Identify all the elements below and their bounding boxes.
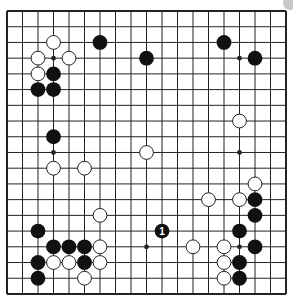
black-stone [46,239,61,254]
black-stone [93,35,108,50]
white-stone [31,67,45,81]
black-stone [248,192,263,207]
star-point [51,56,56,61]
white-stone [62,256,76,270]
black-stone [62,239,77,254]
white-stone [47,161,61,175]
star-point [237,56,242,61]
white-stone [93,208,107,222]
white-stone [217,256,231,270]
white-stone [78,161,92,175]
white-stone [47,36,61,50]
black-stone [248,208,263,223]
black-stone [77,239,92,254]
black-stone [31,271,46,286]
white-stone [47,256,61,270]
black-stone [139,51,154,66]
black-stone [31,255,46,270]
white-stone [78,271,92,285]
black-stone [217,35,232,50]
white-stone [233,193,247,207]
black-stone [232,271,247,286]
star-point [51,150,56,155]
black-stone [46,66,61,81]
white-stone [186,240,200,254]
star-point [144,244,149,249]
black-stone [46,82,61,97]
white-stone [93,256,107,270]
move-number-label: 1 [159,226,165,237]
white-stone [217,271,231,285]
white-stone [248,177,262,191]
go-board[interactable]: 1 [0,0,293,304]
black-stone [232,224,247,239]
star-point [237,244,242,249]
black-stone [31,82,46,97]
white-stone [62,51,76,65]
black-stone [46,129,61,144]
white-stone [140,146,154,160]
white-stone [93,240,107,254]
white-stone [202,193,216,207]
white-stone [233,114,247,128]
black-stone [31,224,46,239]
black-stone [248,51,263,66]
black-stone [248,239,263,254]
white-stone [31,51,45,65]
star-point [237,150,242,155]
black-stone [232,255,247,270]
black-stone [77,255,92,270]
white-stone [217,240,231,254]
